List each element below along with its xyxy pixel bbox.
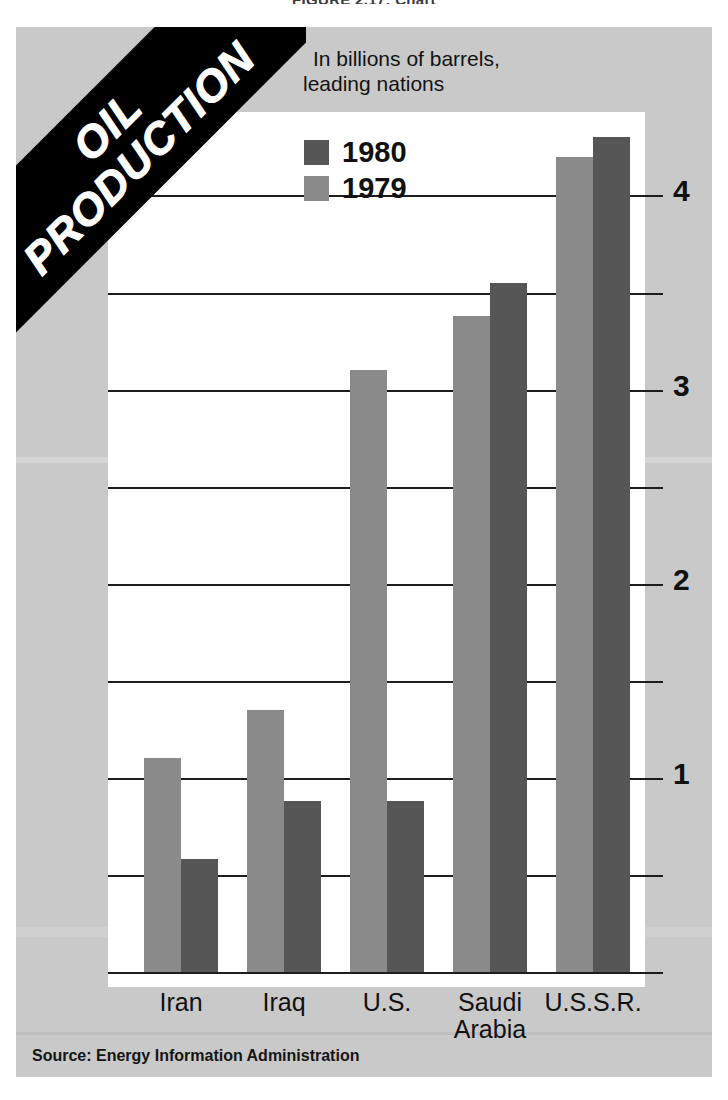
category-label-line1: Iran	[159, 988, 202, 1016]
bar	[556, 157, 593, 972]
gridline-major	[108, 972, 645, 974]
category-label-line1: Iraq	[262, 988, 305, 1016]
legend-swatch-icon	[304, 176, 329, 201]
bar	[144, 758, 181, 972]
category-label-line1: Saudi	[458, 988, 522, 1016]
y-axis-tick	[645, 875, 663, 877]
bar	[350, 370, 387, 972]
legend: 1980 1979	[304, 138, 407, 210]
y-axis-tick-label: 3	[673, 369, 690, 403]
y-axis-tick	[645, 293, 663, 295]
x-axis-category-label: U.S.S.R.	[523, 989, 663, 1016]
y-axis-tick	[645, 778, 663, 780]
category-label-line1: U.S.	[363, 988, 412, 1016]
bar	[387, 801, 424, 972]
bar	[247, 710, 284, 972]
source-note: Source: Energy Information Administratio…	[32, 1047, 359, 1065]
y-axis-tick	[645, 390, 663, 392]
plot-area: 1980 1979	[108, 112, 645, 987]
y-axis-tick-label: 4	[673, 174, 690, 208]
y-axis-tick-label: 2	[673, 563, 690, 597]
y-axis-tick	[645, 681, 663, 683]
legend-item-1980: 1980	[304, 138, 407, 167]
legend-label: 1980	[342, 138, 407, 167]
category-label-line2: Arabia	[454, 1015, 526, 1043]
chart-subtitle-line2: leading nations	[303, 71, 583, 96]
bar	[284, 801, 321, 972]
legend-label: 1979	[342, 174, 407, 203]
y-axis-tick-label: 1	[673, 757, 690, 791]
bar	[181, 859, 218, 972]
y-axis-tick	[645, 584, 663, 586]
bar	[593, 137, 630, 972]
legend-item-1979: 1979	[304, 174, 407, 203]
bar	[453, 316, 490, 972]
chart-subtitle-line1: In billions of barrels,	[313, 47, 500, 70]
y-axis-tick	[645, 195, 663, 197]
figure-card: In billions of barrels, leading nations …	[16, 27, 712, 1077]
bar	[490, 283, 527, 972]
scan-artifact-band	[16, 1032, 712, 1035]
category-label-line1: U.S.S.R.	[544, 988, 641, 1016]
legend-swatch-icon	[304, 140, 329, 165]
page-title: FIGURE 2.17: Chart	[0, 0, 728, 4]
chart-subtitle: In billions of barrels, leading nations	[313, 46, 583, 96]
y-axis-tick	[645, 487, 663, 489]
y-axis-tick	[645, 972, 663, 974]
